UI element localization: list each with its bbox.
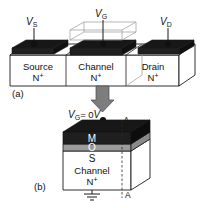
figure-canvas: VS VG VD Source N+ Channel N+ Drain N+ bbox=[0, 0, 203, 208]
panel-b: VG= 0V A M O S Channel N+ bbox=[34, 109, 150, 200]
gate-node-dot bbox=[100, 41, 106, 47]
drain-contact-front bbox=[138, 48, 180, 54]
cut-label-bottom: A bbox=[125, 190, 131, 200]
source-contact-front bbox=[12, 48, 54, 54]
caption-a: (a) bbox=[12, 88, 24, 99]
source-region-label: Source bbox=[23, 61, 53, 72]
source-node-dot bbox=[31, 41, 37, 47]
gate-bias-label: VG= 0V bbox=[68, 109, 102, 121]
metal-front-face bbox=[63, 132, 131, 144]
panel-a: VS VG VD Source N+ Channel N+ Drain N+ bbox=[10, 8, 195, 99]
body-channel-label: Channel bbox=[74, 165, 109, 176]
drain-node-dot bbox=[165, 41, 171, 47]
caption-b: (b) bbox=[34, 181, 46, 192]
ground-icon bbox=[84, 190, 100, 200]
source-terminal-label: VS bbox=[26, 16, 38, 28]
semiconductor-layer-label: S bbox=[89, 153, 96, 164]
gate-contact-front bbox=[70, 48, 122, 55]
mosfet-figure: VS VG VD Source N+ Channel N+ Drain N+ bbox=[0, 0, 203, 208]
drain-terminal-label: VD bbox=[160, 16, 172, 28]
oxide-front-face bbox=[63, 144, 131, 151]
drain-region-label: Drain bbox=[142, 61, 165, 72]
channel-region-label: Channel bbox=[78, 61, 113, 72]
oxide-layer-label: O bbox=[88, 142, 96, 153]
gate-terminal-label: VG bbox=[95, 8, 107, 20]
